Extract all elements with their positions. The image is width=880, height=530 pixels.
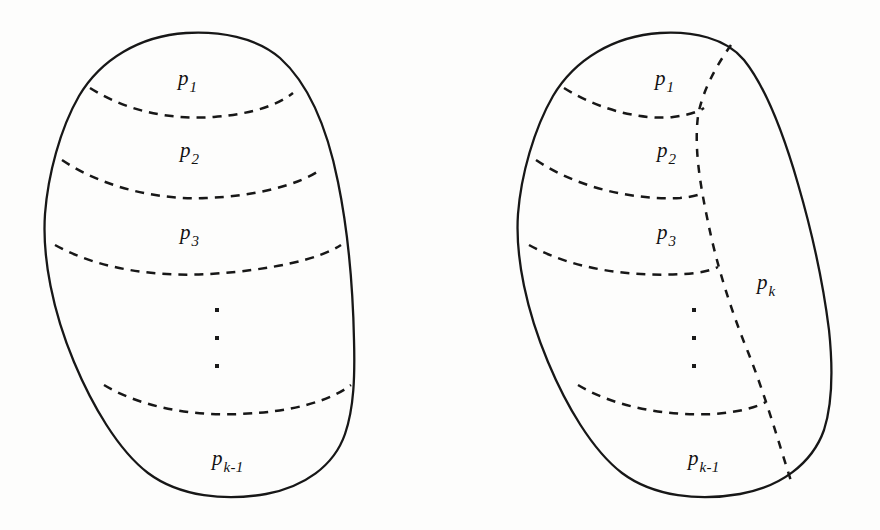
right-label-p3-base: p [657,220,668,244]
left-label-p1: p1 [178,68,196,89]
left-arc-4 [104,385,351,414]
right-label-pk: pk [757,272,774,293]
left-label-p2: p2 [180,140,198,161]
right-blob-outline [518,33,832,497]
dot-1 [692,308,696,312]
right-arc-4 [578,385,766,414]
dot-3 [215,364,219,368]
dot-2 [215,336,219,340]
right-label-pk-minus-1-sub: k-1 [700,459,720,475]
right-label-pk-sub: k [769,283,776,299]
left-blob-outline [45,33,355,497]
right-label-p2-base: p [657,138,668,162]
left-arc-3 [55,245,341,275]
left-label-p1-base: p [178,66,189,90]
left-label-p3-sub: 3 [192,233,200,249]
right-label-p2-sub: 2 [669,151,677,167]
left-label-pk-minus-1: pk-1 [212,448,243,469]
left-label-p3: p3 [180,222,198,243]
dot-2 [692,336,696,340]
right-label-p3: p3 [657,222,675,243]
right-arc-2 [536,160,703,198]
right-label-p1-base: p [655,66,666,90]
right-label-p1: p1 [655,68,673,89]
left-label-pk-minus-1-sub: k-1 [224,459,244,475]
right-label-p2: p2 [657,140,675,161]
right-label-pk-minus-1: pk-1 [688,448,719,469]
right-label-p1-sub: 1 [667,79,675,95]
right-arc-3 [529,245,718,275]
figure-canvas [0,0,880,530]
right-label-pk-minus-1-base: p [688,446,699,470]
left-arc-2 [62,160,320,198]
left-vertical-dots [215,308,220,368]
dot-3 [692,364,696,368]
dot-1 [215,308,219,312]
figure-root: p1 p2 p3 pk-1 p1 p2 p3 pk pk-1 [0,0,880,530]
left-label-pk-minus-1-base: p [212,446,223,470]
left-label-p1-sub: 1 [190,79,198,95]
left-label-p2-base: p [180,138,191,162]
right-arc-1 [564,88,704,118]
right-vertical-dots [692,308,697,368]
left-label-p3-base: p [180,220,191,244]
vertical-dashed-cut [697,45,791,481]
left-partition-diagram [45,33,355,497]
right-label-p3-sub: 3 [669,233,677,249]
left-label-p2-sub: 2 [192,151,200,167]
right-partition-diagram [518,33,832,497]
right-label-pk-base: p [757,270,768,294]
